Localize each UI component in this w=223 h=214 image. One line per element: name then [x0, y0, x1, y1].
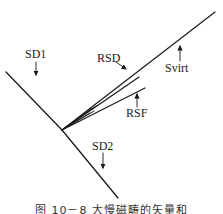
vector-diagram: [0, 0, 223, 214]
label-sd1: SD1: [25, 48, 46, 60]
label-rsd: RSD: [97, 52, 120, 64]
sd1-line: [6, 72, 62, 130]
label-sd2: SD2: [92, 140, 113, 152]
label-rsf: RSF: [126, 107, 147, 119]
label-svirt: Svirt: [165, 62, 188, 74]
figure-caption: 图 10－8 大慢磁畴的矢量和: [0, 201, 223, 214]
fan-line: [62, 106, 96, 130]
